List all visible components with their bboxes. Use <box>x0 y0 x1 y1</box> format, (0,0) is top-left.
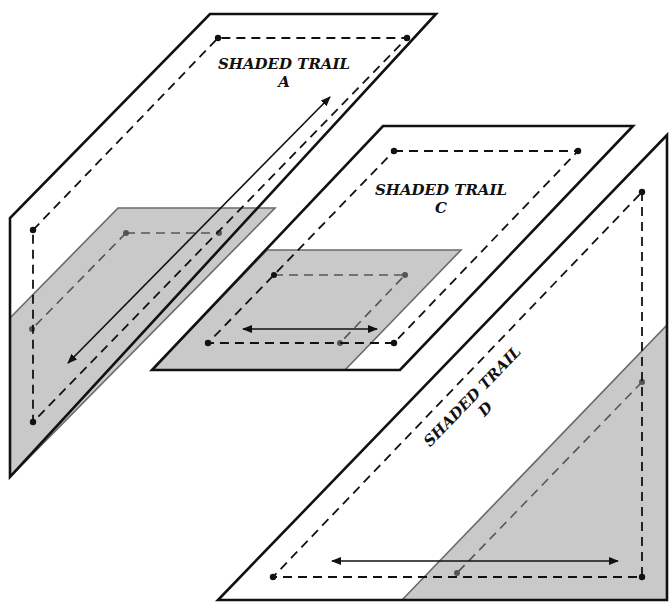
panel-a-letter: A <box>276 73 290 91</box>
panel-a-title: SHADED TRAIL <box>218 55 350 73</box>
panel-c-title: SHADED TRAIL <box>375 181 507 199</box>
panel-c-letter: C <box>435 199 447 217</box>
shaded-trail-diagram: SHADED TRAIL A SHADED TRAIL C SHADED <box>0 0 669 610</box>
